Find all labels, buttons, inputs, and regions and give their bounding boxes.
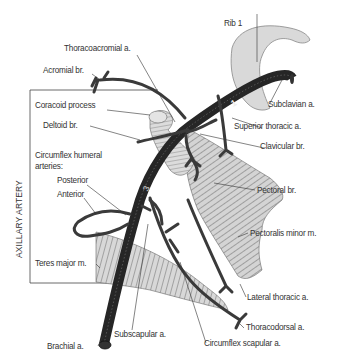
label-coracoid-process: Coracoid process [35,102,96,110]
label-rib-1: Rib 1 [224,20,242,28]
label-anterior: Anterior [57,191,84,199]
rib-1 [231,26,310,110]
label-clavicular-branch: Clavicular br. [260,143,305,151]
axillary-artery-illustration: 1 3 [0,0,337,361]
label-pectoralis-minor: Pectoralis minor m. [250,230,316,238]
label-posterior: Posterior [57,177,88,185]
label-circumflex-scapular: Circumflex scapular a. [204,340,281,348]
pectoralis-minor-muscle [186,130,283,278]
label-superior-thoracic: Superior thoracic a. [234,123,301,131]
label-teres-major: Teres major m. [35,260,86,268]
label-thoracoacromial: Thoracoacromial a. [64,45,130,53]
axillary-artery-title: AXILLARY ARTERY [14,180,24,258]
label-lateral-thoracic: Lateral thoracic a. [247,294,308,302]
label-circumflex-humeral: Circumflex humeral [35,152,102,160]
label-circumflex-humeral-2: arteries: [35,163,63,171]
brachial-artery-end [99,341,111,349]
label-subscapular: Subscapular a. [114,331,166,339]
label-subclavian: Subclavian a. [268,101,315,109]
label-pectoral-branch: Pectoral br. [257,187,296,195]
label-thoracodorsal: Thoracodorsal a. [246,324,304,332]
label-brachial: Brachial a. [47,343,83,351]
label-deltoid-branch: Deltoid br. [43,122,78,130]
label-acromial-branch: Acromial br. [43,67,84,75]
